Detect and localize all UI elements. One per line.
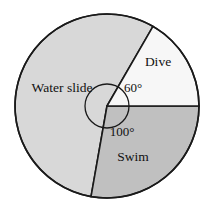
pie-chart-figure: Water slide Dive Swim 60° 100° (0, 0, 214, 212)
slice-label-swim: Swim (117, 149, 149, 164)
pie-chart-svg: Water slide Dive Swim 60° 100° (0, 0, 214, 212)
angle-label-swim: 100° (110, 124, 135, 139)
slice-label-dive: Dive (145, 54, 171, 69)
angle-label-dive: 60° (124, 80, 142, 95)
slice-label-water-slide: Water slide (32, 80, 93, 95)
